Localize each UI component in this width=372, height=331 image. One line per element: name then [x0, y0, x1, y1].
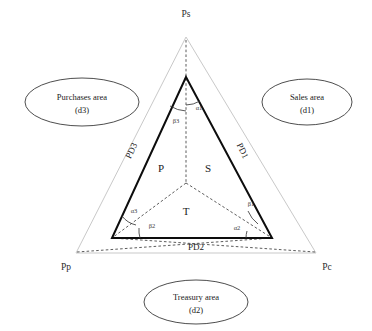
callout-treasury-area: Treasury area (d2)	[144, 280, 248, 324]
angle-arc-alpha2	[246, 231, 247, 238]
diagram-canvas: Ps Pp Pc P S T PD1 PD2 PD3 α1 β3 α3 β2 β…	[0, 0, 372, 331]
side-label-pd2: PD2	[188, 242, 204, 252]
callout-treasury-ellipse	[144, 280, 248, 324]
callout-purchases-ellipse	[25, 78, 139, 126]
vertex-label-ps: Ps	[182, 9, 191, 19]
callout-treasury-line1: Treasury area	[173, 292, 219, 302]
dashed-axis-pp-right	[77, 238, 272, 252]
angle-arc-alpha3	[122, 216, 136, 225]
angle-label-alpha3: α3	[131, 207, 138, 214]
callout-treasury-line2: (d2)	[189, 305, 203, 315]
dashed-axis-pc-left	[112, 238, 315, 252]
angle-arc-beta2	[139, 228, 140, 238]
angle-label-beta2: β2	[149, 222, 156, 229]
angle-label-alpha2: α2	[234, 224, 241, 231]
callout-sales-ellipse	[262, 79, 352, 125]
vertex-label-pc: Pc	[322, 262, 332, 272]
region-label-t: T	[183, 205, 190, 217]
angle-label-beta1: β1	[248, 200, 255, 207]
region-label-p: P	[158, 162, 164, 174]
side-label-pd3: PD3	[123, 141, 139, 160]
callout-sales-area: Sales area (d1)	[262, 79, 352, 125]
triangle-diagram: Ps Pp Pc P S T PD1 PD2 PD3 α1 β3 α3 β2 β…	[0, 0, 372, 331]
callout-purchases-line1: Purchases area	[57, 92, 107, 102]
vertex-label-pp: Pp	[61, 262, 71, 272]
dashed-center-to-right	[186, 183, 272, 238]
dashed-center-to-left	[112, 183, 186, 238]
callout-purchases-area: Purchases area (d3)	[25, 78, 139, 126]
callout-sales-line1: Sales area	[290, 92, 324, 102]
callout-sales-line2: (d1)	[300, 105, 314, 115]
callout-purchases-line2: (d3)	[75, 105, 89, 115]
side-label-pd1: PD1	[235, 141, 251, 160]
region-label-s: S	[205, 162, 211, 174]
angle-label-beta3: β3	[173, 117, 180, 124]
outer-triangle	[76, 37, 316, 253]
angle-label-alpha1: α1	[196, 104, 203, 111]
angle-arc-beta1	[248, 211, 258, 224]
